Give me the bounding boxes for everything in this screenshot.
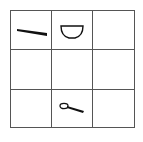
item-grid [10,10,135,128]
grid-cell-0-2[interactable] [93,11,134,50]
chopsticks-icon [11,11,52,50]
grid-cell-2-1[interactable] [52,90,93,129]
grid-cell-1-1[interactable] [52,50,93,89]
grid-cell-1-2[interactable] [93,50,134,89]
grid-cell-2-0[interactable] [11,90,52,129]
grid-cell-2-2[interactable] [93,90,134,129]
grid-cell-1-0[interactable] [11,50,52,89]
spoon-icon [52,90,93,129]
grid-cell-0-0[interactable] [11,11,52,50]
grid-cell-0-1[interactable] [52,11,93,50]
bowl-icon [52,11,93,50]
